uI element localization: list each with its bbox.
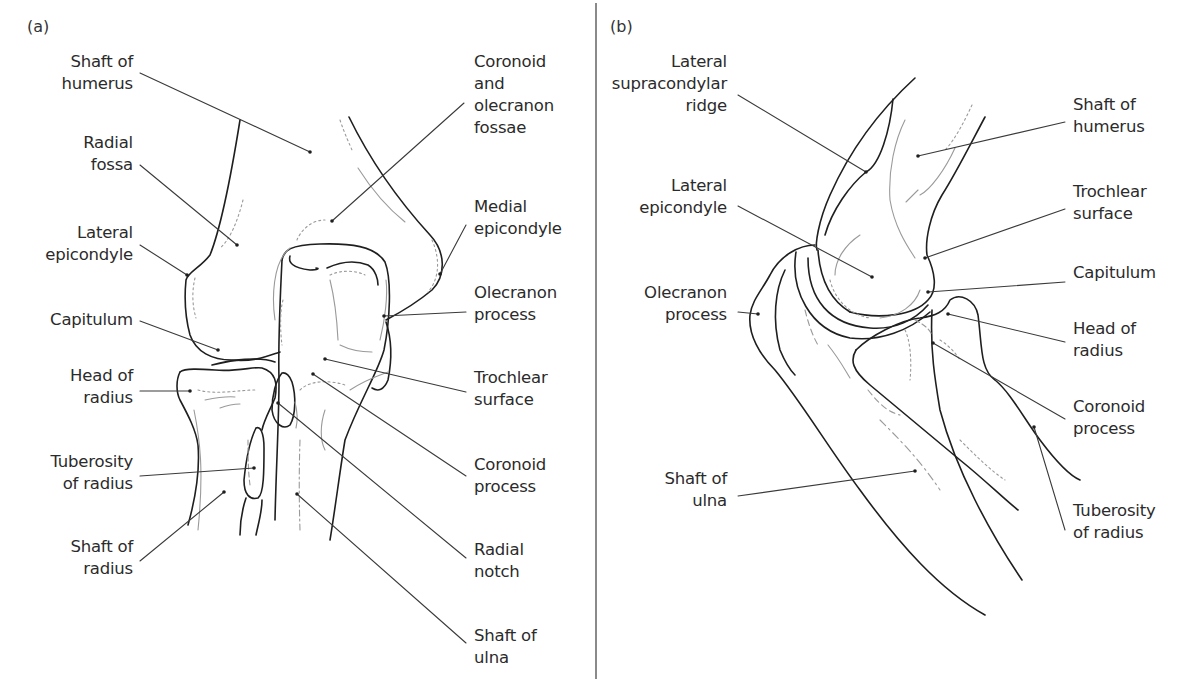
panel-b-leaders xyxy=(738,95,1065,530)
label-a-coronoid-process: Coronoid process xyxy=(474,454,546,498)
label-a-capitulum: Capitulum xyxy=(50,309,133,331)
label-b-olecranon-process: Olecranon process xyxy=(644,282,727,326)
label-b-capitulum: Capitulum xyxy=(1073,262,1156,284)
label-a-coronoid-olecranon-fossae: Coronoid and olecranon fossae xyxy=(474,51,554,139)
panel-b-leader-dots xyxy=(756,154,1036,473)
elbow-joint-figure: (a) (b) xyxy=(0,0,1187,697)
label-b-shaft-of-humerus: Shaft of humerus xyxy=(1073,94,1145,138)
label-a-medial-epicondyle: Medial epicondyle xyxy=(474,196,562,240)
label-b-shaft-of-ulna: Shaft of ulna xyxy=(664,468,727,512)
label-b-lateral-supracondylar-ridge: Lateral supracondylar ridge xyxy=(612,51,727,117)
panel-b-bones xyxy=(750,78,1080,615)
label-a-trochlear-surface: Trochlear surface xyxy=(474,367,548,411)
panel-a-leaders xyxy=(140,73,466,643)
label-a-head-of-radius: Head of radius xyxy=(70,365,133,409)
label-a-shaft-of-radius: Shaft of radius xyxy=(70,536,133,580)
label-b-lateral-epicondyle: Lateral epicondyle xyxy=(639,175,727,219)
label-b-trochlear-surface: Trochlear surface xyxy=(1073,181,1147,225)
label-a-shaft-of-humerus: Shaft of humerus xyxy=(61,51,133,95)
label-a-lateral-epicondyle: Lateral epicondyle xyxy=(45,222,133,266)
panel-b-hidden-lines xyxy=(805,105,1005,490)
label-a-shaft-of-ulna: Shaft of ulna xyxy=(474,625,537,669)
label-a-tuberosity-of-radius: Tuberosity of radius xyxy=(50,451,133,495)
label-a-radial-notch: Radial notch xyxy=(474,539,524,583)
label-b-tuberosity-of-radius: Tuberosity of radius xyxy=(1073,500,1156,544)
label-b-head-of-radius: Head of radius xyxy=(1073,318,1136,362)
anatomy-drawing xyxy=(0,0,1187,697)
label-a-radial-fossa: Radial fossa xyxy=(83,132,133,176)
panel-a-leader-dots xyxy=(185,150,442,496)
label-b-coronoid-process: Coronoid process xyxy=(1073,396,1145,440)
panel-a-bones xyxy=(177,117,442,540)
label-a-olecranon-process: Olecranon process xyxy=(474,282,557,326)
